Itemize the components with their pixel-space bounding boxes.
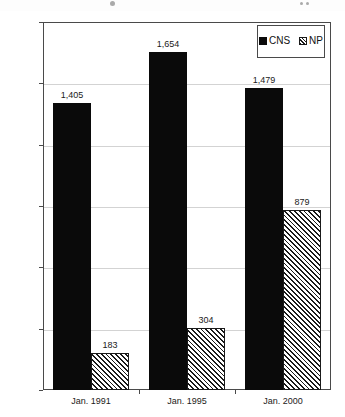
bar-chart: 03006009001,2001,5001,800 Jan. 1991Jan. … [0,0,345,417]
bar-value-label: 304 [179,316,233,325]
bar-np-2 [283,210,321,390]
x-axis-tick-mark [139,390,140,394]
bar-value-label: 1,654 [141,40,195,49]
legend-entry-np: NP [299,36,323,46]
x-axis-category-label: Jan. 1991 [51,396,131,406]
legend-label-cns: CNS [269,36,290,46]
legend-label-np: NP [309,36,323,46]
solid-black-swatch-icon [259,37,267,45]
x-axis-category-label: Jan. 2000 [243,396,323,406]
chart-legend: CNS NP [257,25,325,58]
y-axis-tick-mark [39,267,43,268]
x-axis-category-label: Jan. 1995 [147,396,227,406]
y-axis-tick-mark [39,22,43,23]
bar-cns-1 [149,52,187,390]
bar-value-label: 1,479 [237,76,291,85]
y-axis-tick-mark [39,145,43,146]
y-axis-tick-mark [39,390,43,391]
legend-entry-cns: CNS [259,36,290,46]
bar-np-0 [91,353,129,390]
y-axis-tick-mark [39,206,43,207]
bar-value-label: 1,405 [45,91,99,100]
bar-value-label: 183 [83,341,137,350]
y-axis-tick-mark [39,83,43,84]
x-axis-tick-mark [235,390,236,394]
scan-artifact [0,0,345,11]
y-axis-tick-mark [39,329,43,330]
bar-value-label: 879 [275,198,329,207]
diagonal-hatch-swatch-icon [299,37,307,45]
bar-np-1 [187,328,225,390]
bar-cns-2 [245,88,283,390]
